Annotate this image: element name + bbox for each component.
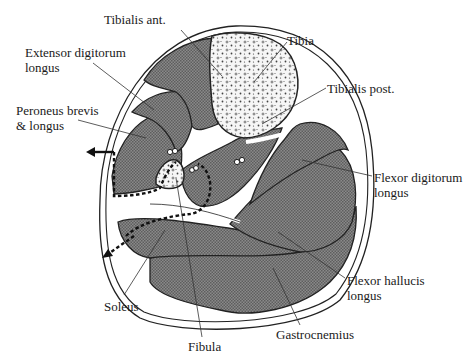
label-extensor-digitorum-line2: longus: [25, 60, 60, 75]
label-flexor-digitorum-line1: Flexor digitorum: [374, 170, 462, 185]
label-peroneus-line1: Peroneus brevis: [16, 103, 99, 118]
label-soleus: Soleus: [104, 299, 139, 314]
label-flexor-digitorum-line2: longus: [374, 185, 409, 200]
label-flexor-hallucis-line1: Flexor hallucis: [347, 273, 425, 288]
label-flexor-hallucis-line2: longus: [347, 288, 382, 303]
label-peroneus-line2: & longus: [16, 118, 64, 133]
label-extensor-digitorum-line1: Extensor digitorum: [25, 45, 126, 60]
label-tibia: Tibia: [287, 33, 314, 48]
label-gastrocnemius: Gastrocnemius: [276, 327, 354, 342]
label-tibialis-post: Tibialis post.: [327, 81, 394, 96]
label-tibialis-ant: Tibialis ant.: [104, 12, 166, 27]
label-fibula: Fibula: [188, 339, 221, 354]
